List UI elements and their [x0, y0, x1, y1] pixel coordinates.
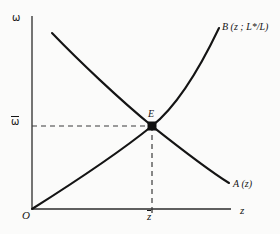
figure-canvas: ω ω O z z E B (z ; L*/L) A (z): [0, 0, 280, 234]
origin-label: O: [22, 210, 30, 221]
x-axis-tick-label-text: z: [147, 211, 151, 222]
y-axis-label: ω: [12, 13, 20, 23]
curve-a-path: [52, 33, 229, 183]
x-axis-label: z: [240, 205, 244, 216]
equilibrium-point-label: E: [148, 109, 154, 119]
x-axis-tick-label-z-bar: z: [147, 211, 151, 222]
equilibrium-point-marker: [148, 122, 157, 131]
curve-a-label: A (z): [233, 179, 252, 189]
plot-vector-layer: [0, 0, 280, 234]
curve-b-path: [32, 28, 219, 209]
y-axis-tick-label-text: ω: [11, 117, 19, 127]
y-axis-tick-label-omega-bar: ω: [11, 117, 19, 127]
curve-b-label: B (z ; L*/L): [222, 22, 268, 32]
